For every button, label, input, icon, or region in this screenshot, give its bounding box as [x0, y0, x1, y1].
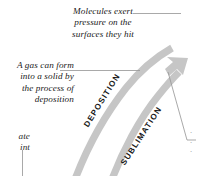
figure-canvas: Molecules exert pressure on the surfaces… [0, 0, 197, 176]
callout-bottom-left-cropped: ate int [0, 131, 30, 154]
callout-molecules-pressure: Molecules exert pressure on the surfaces… [62, 6, 144, 40]
callout-gas-to-solid-deposition: A gas can form into a solid by the proce… [0, 60, 74, 106]
callout-right-edge-cropped: · · · [190, 128, 197, 157]
